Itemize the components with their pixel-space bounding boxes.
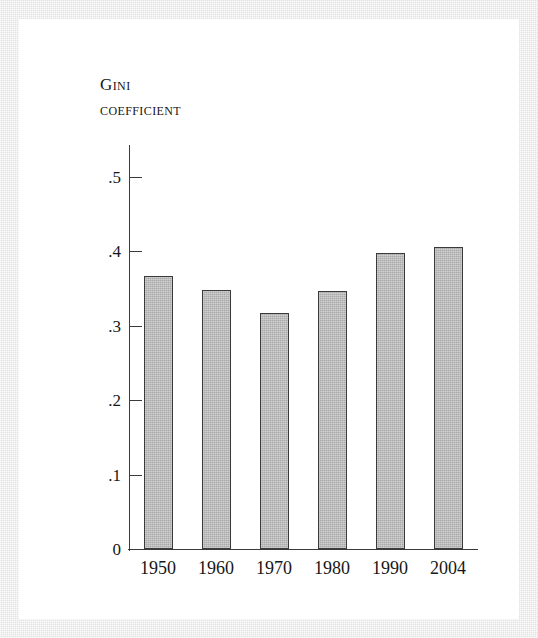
x-axis-line <box>128 549 478 550</box>
bar <box>202 290 231 549</box>
y-axis-tick <box>130 177 142 178</box>
y-axis-tick <box>130 400 142 401</box>
y-axis-tick <box>130 326 142 327</box>
bar <box>434 247 463 549</box>
y-axis-line <box>129 145 130 551</box>
bar-chart-plot: 0.1.2.3.4.5 195019601970198019902004 <box>19 19 519 619</box>
y-axis-tick <box>130 475 142 476</box>
y-axis-tick-label: .3 <box>59 318 121 335</box>
y-axis-tick-label: .1 <box>59 467 121 484</box>
x-axis-tick-label: 2004 <box>411 559 485 577</box>
bar <box>260 313 289 549</box>
y-axis-tick <box>130 251 142 252</box>
y-axis-tick-label: .5 <box>59 169 121 186</box>
y-axis-tick-label: 0 <box>59 541 121 558</box>
bar <box>376 253 405 549</box>
y-axis-tick <box>130 549 142 550</box>
page-frame-border: Gini coefficient 0.1.2.3.4.5 19501960197… <box>0 0 538 638</box>
bar <box>144 276 173 549</box>
y-axis-tick-label: .2 <box>59 392 121 409</box>
bar <box>318 291 347 549</box>
y-axis-tick-label: .4 <box>59 243 121 260</box>
figure-plate: Gini coefficient 0.1.2.3.4.5 19501960197… <box>19 19 519 619</box>
